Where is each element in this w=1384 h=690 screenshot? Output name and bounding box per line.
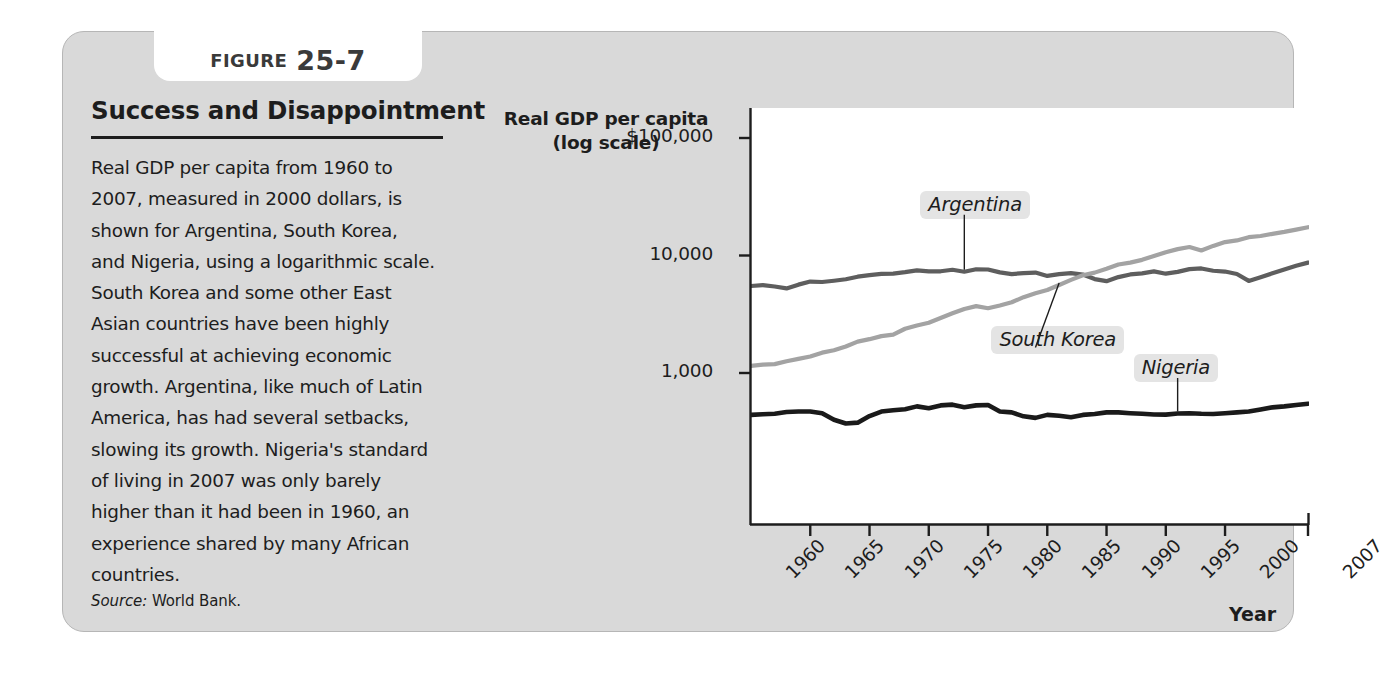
source-value: World Bank. xyxy=(152,592,241,610)
figure-number-tab: FIGURE 25-7 xyxy=(154,31,422,81)
series-label-nigeria: Nigeria xyxy=(1134,354,1218,382)
figure-text-column: Success and Disappointment Real GDP per … xyxy=(91,98,447,610)
title-divider xyxy=(91,136,443,139)
y-tick-label-2: 1,000 xyxy=(517,360,713,381)
series-label-argentina: Argentina xyxy=(920,191,1030,219)
y-tick-label-1: 10,000 xyxy=(517,243,713,264)
figure-title: Success and Disappointment xyxy=(91,98,447,125)
series-label-south-korea: South Korea xyxy=(991,326,1124,354)
x-axis-title: Year xyxy=(1229,603,1276,625)
chart-container: Real GDP per capita (log scale) $100,000… xyxy=(463,32,1293,633)
figure-card: FIGURE 25-7 Success and Disappointment R… xyxy=(62,31,1294,632)
figure-number-tab-inner: FIGURE 25-7 xyxy=(154,35,422,85)
figure-source: Source: World Bank. xyxy=(91,592,447,610)
figure-caption-body: Real GDP per capita from 1960 to 2007, m… xyxy=(91,152,437,590)
y-tick-label-0: $100,000 xyxy=(517,125,713,146)
figure-word-label: FIGURE xyxy=(210,50,287,71)
source-label: Source: xyxy=(91,592,147,610)
figure-number-label: 25-7 xyxy=(296,45,366,76)
